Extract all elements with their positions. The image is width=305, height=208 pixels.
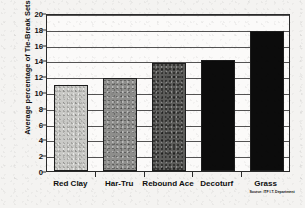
y-tick-label: 4	[19, 136, 43, 145]
bar-fill	[251, 32, 283, 170]
bar-fill	[104, 79, 136, 170]
x-tick-mark	[95, 172, 96, 177]
x-tick-mark	[241, 172, 242, 177]
bar-fill	[202, 61, 234, 170]
bar-fill	[55, 86, 87, 170]
bar-grass	[250, 31, 284, 171]
x-tick-label-grass: Grass	[233, 179, 299, 188]
x-tick-mark	[192, 172, 193, 177]
bar-rebound-ace	[152, 63, 186, 171]
source-note: Source: ITF I.T. Department	[241, 190, 303, 194]
bar-har-tru	[103, 78, 137, 171]
y-tick-label: 12	[19, 73, 43, 82]
y-tick-label: 18	[19, 25, 43, 34]
bar-chart: Average percentage of Tie-Break Sets 024…	[0, 0, 305, 208]
y-tick-label: 10	[19, 89, 43, 98]
y-tick-label: 14	[19, 57, 43, 66]
gridline	[47, 15, 289, 16]
y-tick-label: 16	[19, 41, 43, 50]
y-tick-label: 0	[19, 168, 43, 177]
plot-area	[46, 14, 290, 172]
y-tick-label: 20	[19, 10, 43, 19]
y-tick-label: 6	[19, 120, 43, 129]
y-tick-label: 8	[19, 104, 43, 113]
bar-fill	[153, 64, 185, 170]
y-tick-label: 2	[19, 152, 43, 161]
x-tick-mark	[144, 172, 145, 177]
bar-decoturf	[201, 60, 235, 171]
bar-red-clay	[54, 85, 88, 171]
